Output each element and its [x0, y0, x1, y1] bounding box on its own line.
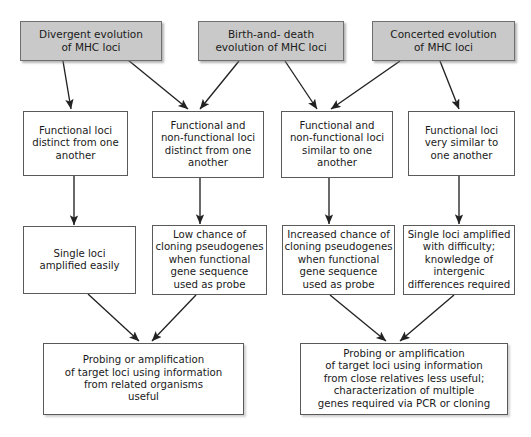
node-divergent-evolution[interactable]: Divergent evolution of MHC loci: [20, 21, 162, 61]
node-increased-chance-cloning[interactable]: Increased chance of cloning pseudogenes …: [282, 225, 395, 295]
node-functional-loci-very-similar[interactable]: Functional loci very similar to one anot…: [408, 111, 515, 176]
edge-difficult-to-outcome-right: [400, 295, 454, 341]
edge-birthdeath-to-fn-distinct: [200, 61, 239, 109]
edge-concerted-to-fn-similar: [331, 61, 400, 109]
node-birth-and-death[interactable]: Birth-and- death evolution of MHC loci: [198, 21, 344, 61]
edge-divergent-to-functional-distinct: [63, 61, 71, 109]
node-single-loci-amplified-easily[interactable]: Single loci amplified easily: [23, 226, 136, 294]
node-outcome-close-relatives[interactable]: Probing or amplification of target loci …: [300, 343, 508, 415]
node-functional-loci-distinct[interactable]: Functional loci distinct from one anothe…: [23, 111, 128, 176]
edge-concerted-to-very-similar: [440, 61, 459, 109]
node-functional-nonfunctional-similar[interactable]: Functional and non-functional loci simil…: [281, 111, 393, 178]
edge-birthdeath-to-fn-similar: [285, 61, 317, 109]
edge-divergent-to-fn-distinct: [128, 60, 188, 109]
node-outcome-related-organisms[interactable]: Probing or amplification of target loci …: [43, 343, 244, 415]
edge-low-chance-to-outcome-left: [152, 295, 196, 341]
edge-increased-to-outcome-right: [330, 295, 386, 341]
edge-single-easy-to-outcome-left: [88, 294, 139, 341]
flowchart-canvas: Divergent evolution of MHC loci Birth-an…: [0, 0, 531, 437]
node-functional-nonfunctional-distinct[interactable]: Functional and non-functional loci disti…: [152, 111, 264, 178]
node-concerted-evolution[interactable]: Concerted evolution of MHC loci: [372, 21, 515, 61]
node-low-chance-cloning[interactable]: Low chance of cloning pseudogenes when f…: [152, 225, 267, 295]
node-single-loci-difficult[interactable]: Single loci amplified with difficulty; k…: [403, 225, 515, 295]
